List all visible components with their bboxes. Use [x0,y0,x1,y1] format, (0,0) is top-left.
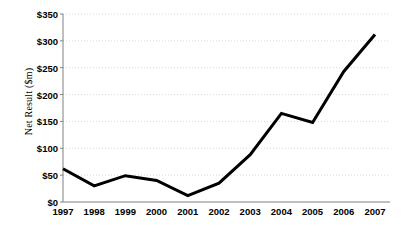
axis-lines [60,14,390,202]
line-chart: Net Result ($m) $0$50$100$150$200$250$30… [0,0,402,234]
gridlines [63,14,390,175]
data-series-line [63,34,375,195]
plot-area [0,0,402,234]
series-net-result [63,34,375,195]
